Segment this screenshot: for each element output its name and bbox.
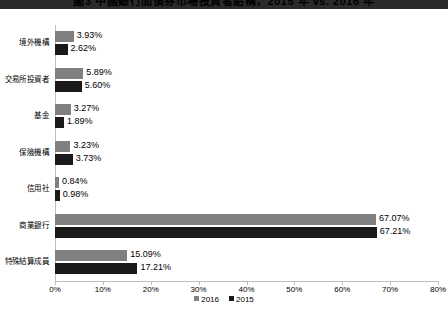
legend-item[interactable]: 2015 (229, 295, 254, 304)
category-label: 特殊結算成員 (5, 255, 49, 266)
bar-2016 (55, 141, 70, 152)
bar-value-label: 67.07% (379, 213, 410, 224)
x-axis-tick-label: 40% (238, 285, 254, 294)
category-label: 信用社 (27, 182, 49, 193)
chart-title: 圖3 中國銀行間債券市場投資者結構，2015 年 vs. 2016 年 (73, 0, 374, 8)
bar-value-label: 0.84% (62, 176, 88, 187)
bar-2015 (55, 44, 68, 55)
legend-label: 2015 (236, 295, 254, 304)
bar-chart: 境外機構3.93%2.62%交易所投資者5.89%5.60%基金3.27%1.8… (0, 9, 448, 315)
bar-group: 商業銀行67.07%67.21% (55, 208, 438, 245)
legend-label: 2016 (201, 295, 219, 304)
x-axis-tick-label: 80% (430, 285, 446, 294)
bar-value-label: 15.09% (130, 249, 161, 260)
bar-value-label: 3.27% (74, 103, 100, 114)
bar-2016 (55, 31, 74, 42)
legend-swatch-icon (194, 296, 199, 301)
plot-area: 境外機構3.93%2.62%交易所投資者5.89%5.60%基金3.27%1.8… (55, 25, 438, 281)
bar-2016 (55, 214, 376, 225)
x-axis-tick-label: 0% (49, 285, 61, 294)
bar-2016 (55, 177, 59, 188)
bar-2016 (55, 68, 83, 79)
category-label: 境外機構 (19, 36, 49, 47)
legend-swatch-icon (229, 296, 234, 301)
category-label: 交易所投資者 (5, 73, 49, 84)
x-axis-tick-label: 20% (143, 285, 159, 294)
bar-2015 (55, 117, 64, 128)
bar-2015 (55, 190, 60, 201)
bar-value-label: 2.62% (71, 43, 97, 54)
bar-value-label: 3.23% (73, 140, 99, 151)
bar-2016 (55, 250, 127, 261)
bar-value-label: 1.89% (67, 116, 93, 127)
bar-value-label: 3.93% (77, 30, 103, 41)
bar-group: 境外機構3.93%2.62% (55, 25, 438, 62)
bar-2015 (55, 263, 137, 274)
bar-value-label: 17.21% (140, 262, 171, 273)
x-axis-tick-label: 60% (334, 285, 350, 294)
bar-2015 (55, 154, 73, 165)
bar-group: 交易所投資者5.89%5.60% (55, 62, 438, 99)
category-label: 保險機構 (19, 146, 49, 157)
bar-value-label: 5.89% (86, 67, 112, 78)
bar-2015 (55, 81, 82, 92)
bar-group: 信用社0.84%0.98% (55, 171, 438, 208)
bar-group: 保險機構3.23%3.73% (55, 135, 438, 172)
x-axis-tick-label: 30% (191, 285, 207, 294)
category-label: 基金 (34, 109, 49, 120)
bar-group: 特殊結算成員15.09%17.21% (55, 244, 438, 281)
x-axis-tick-label: 10% (95, 285, 111, 294)
bar-value-label: 0.98% (63, 189, 89, 200)
bar-value-label: 3.73% (76, 153, 102, 164)
x-axis-tick-label: 70% (382, 285, 398, 294)
chart-legend: 20162015 (0, 295, 448, 304)
bar-group: 基金3.27%1.89% (55, 98, 438, 135)
bar-value-label: 67.21% (380, 226, 411, 237)
category-label: 商業銀行 (19, 219, 49, 230)
legend-item[interactable]: 2016 (194, 295, 219, 304)
bar-value-label: 5.60% (85, 80, 111, 91)
chart-title-band: 圖3 中國銀行間債券市場投資者結構，2015 年 vs. 2016 年 (0, 0, 448, 9)
bar-2015 (55, 227, 377, 238)
x-axis-tick-label: 50% (286, 285, 302, 294)
bar-2016 (55, 104, 71, 115)
